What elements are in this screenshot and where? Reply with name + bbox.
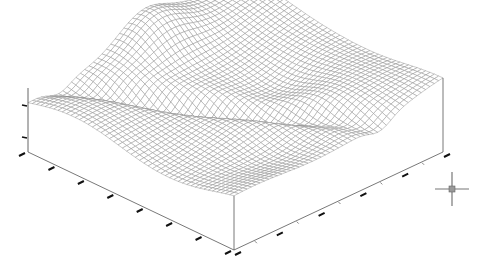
surface-wireframe-chart (0, 0, 485, 268)
surface-plot (0, 0, 485, 268)
crosshair-icon (435, 172, 469, 206)
